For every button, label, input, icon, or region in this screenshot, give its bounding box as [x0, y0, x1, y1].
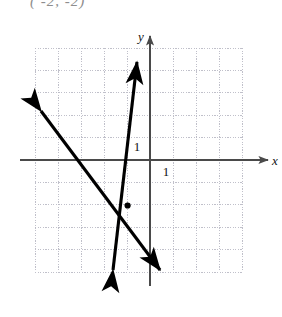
- caption-text: ( -2, -2): [30, 0, 160, 10]
- graph-svg: y x 1 1: [0, 14, 282, 317]
- line-decreasing: [41, 111, 160, 270]
- intersection-point: [125, 202, 131, 208]
- x-axis-label: x: [271, 153, 278, 168]
- y-axis-label: y: [136, 29, 144, 44]
- x-unit-tick-label: 1: [163, 164, 170, 179]
- figure-root: ( -2, -2): [0, 0, 282, 317]
- coordinate-plane: y x 1 1: [0, 14, 282, 317]
- y-unit-tick-label: 1: [134, 139, 141, 154]
